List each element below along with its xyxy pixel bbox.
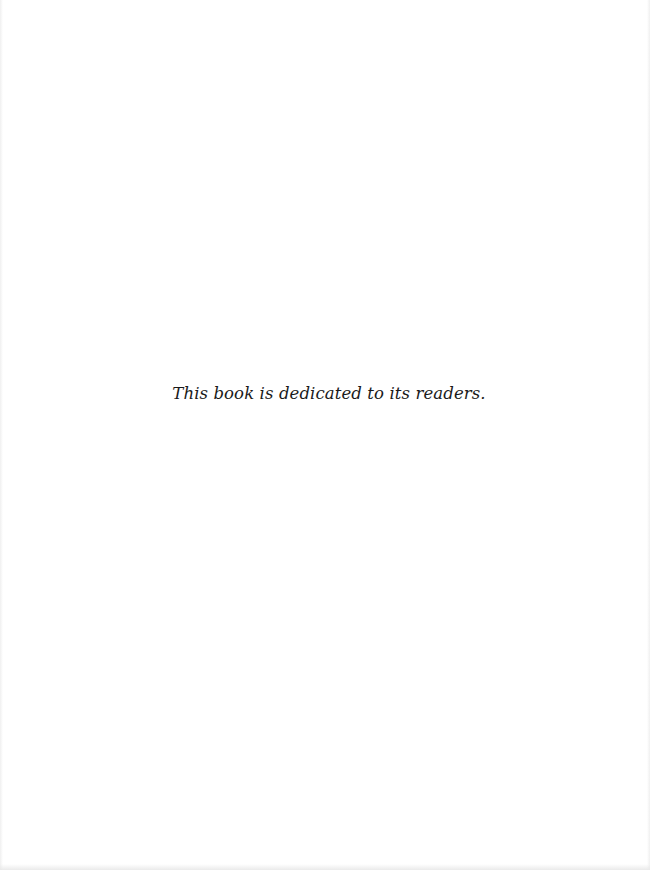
- dedication-text: This book is dedicated to its readers.: [0, 383, 650, 405]
- page-edge-left: [0, 0, 3, 870]
- dedication-page: This book is dedicated to its readers.: [0, 0, 650, 870]
- page-edge-bottom: [0, 864, 650, 870]
